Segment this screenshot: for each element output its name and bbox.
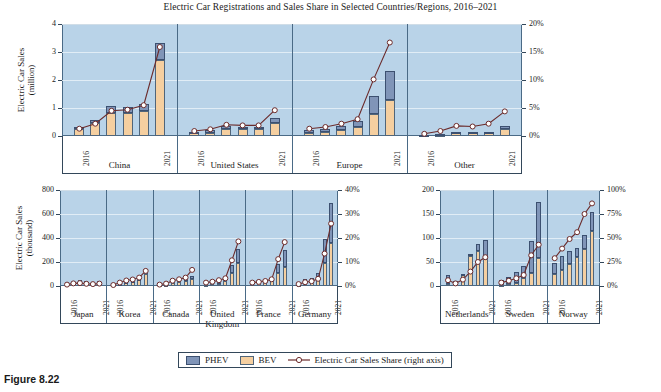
bar-bev (483, 259, 488, 286)
bar-bev (567, 264, 572, 286)
bar-phev (521, 266, 526, 278)
gridline (440, 190, 600, 191)
bar-phev (468, 254, 473, 256)
y2-axis-tick (600, 214, 604, 215)
y2-axis-tick (600, 286, 604, 287)
bar-bev (590, 231, 595, 286)
y-axis-tick-label: 0 (406, 281, 434, 290)
bar-phev (506, 277, 511, 284)
bar-phev (552, 263, 557, 274)
bar-bev (529, 273, 534, 286)
bar-phev (536, 202, 541, 258)
y2-axis-tick-label: 75% (607, 209, 622, 218)
bar-phev (483, 240, 488, 259)
bar-phev (461, 274, 466, 276)
bar-phev (476, 244, 481, 251)
y-axis-tick (436, 262, 440, 263)
bar-bev (582, 249, 587, 286)
bar-phev (560, 256, 565, 270)
bar-phev (582, 235, 587, 249)
gridline (440, 238, 600, 239)
y-axis-tick (436, 214, 440, 215)
bar-bev (552, 274, 557, 286)
figure-8-22: Electric Car Registrations and Sales Sha… (0, 0, 661, 392)
bar-phev (590, 212, 595, 231)
bar-phev (446, 275, 451, 284)
bar-bev (468, 256, 473, 286)
bar-bev (476, 251, 481, 286)
y2-axis-tick (600, 238, 604, 239)
phev-swatch-icon (186, 356, 200, 365)
y-axis-tick-label: 100 (406, 233, 434, 242)
bar-bev (521, 278, 526, 286)
bar-bev (461, 274, 466, 286)
y2-axis-tick (600, 262, 604, 263)
bar-bev (560, 270, 565, 286)
figure-caption: Figure 8.22 (4, 373, 59, 385)
y2-axis-tick-label: 100% (607, 185, 626, 194)
share-line-marker-icon (288, 356, 310, 364)
bar-phev (514, 272, 519, 283)
chart-legend: PHEV BEV Electric Car Sales Share (right… (178, 352, 452, 368)
bar-bev (536, 258, 541, 286)
legend-label-share: Electric Car Sales Share (right axis) (315, 355, 444, 365)
legend-label-phev: PHEV (205, 355, 229, 365)
bar-phev (567, 251, 572, 264)
bar-phev (529, 241, 534, 273)
y2-axis-tick-label: 25% (607, 257, 622, 266)
gridline (440, 214, 600, 215)
legend-label-bev: BEV (259, 355, 277, 365)
bar-phev (575, 248, 580, 257)
y2-axis-tick (600, 190, 604, 191)
bar-bev (575, 257, 580, 286)
y-axis-tick-label: 200 (406, 185, 434, 194)
y2-axis-tick-label: 0% (607, 281, 618, 290)
y2-axis-tick-label: 50% (607, 233, 622, 242)
x-axis-label-band (440, 286, 600, 324)
y-axis-tick-label: 50 (406, 257, 434, 266)
y-axis-tick (436, 190, 440, 191)
y-axis-tick-label: 150 (406, 209, 434, 218)
bev-swatch-icon (240, 356, 254, 365)
y-axis-tick (436, 238, 440, 239)
bar-phev (499, 280, 504, 285)
bottom-right-chart-panel: 0501001502000%25%50%75%100%20162021Nethe… (0, 0, 661, 392)
bar-phev (453, 281, 458, 283)
